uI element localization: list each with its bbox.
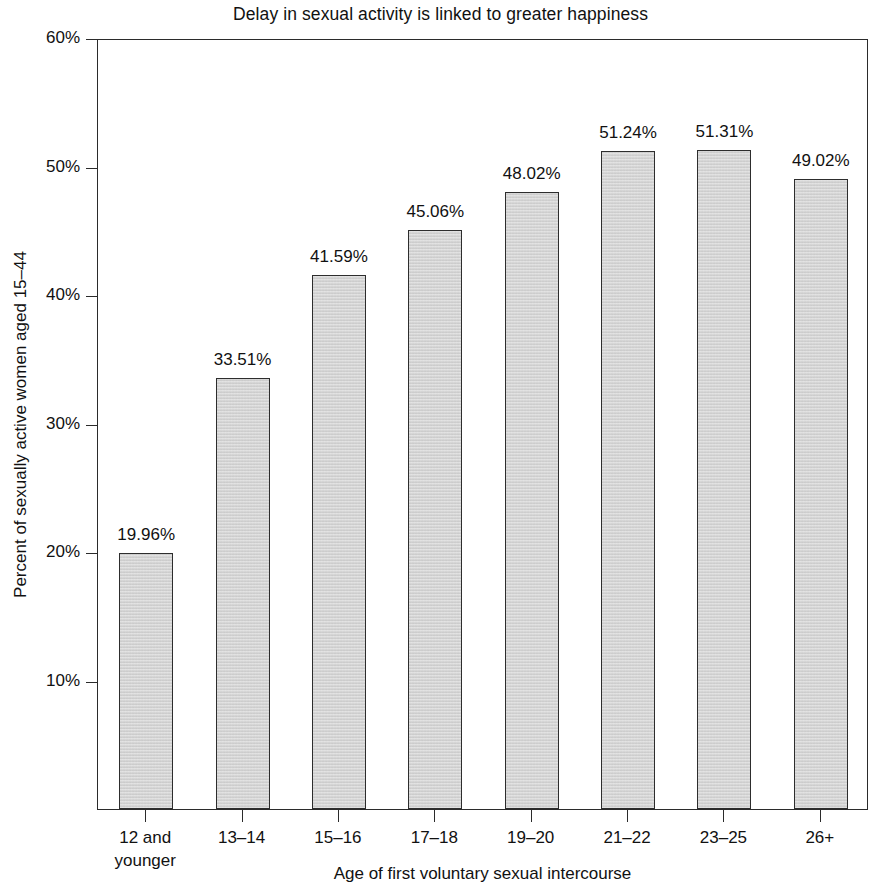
y-axis-tick-label: 20% [46, 542, 80, 562]
bar-value-label: 49.02% [761, 151, 881, 171]
bar [408, 230, 462, 809]
x-axis-tick-mark [242, 810, 243, 822]
bar [505, 192, 559, 809]
x-axis-tick-mark [820, 810, 821, 822]
bar [601, 151, 655, 809]
x-axis-tick-mark [531, 810, 532, 822]
x-axis-tick-label: 26+ [760, 826, 880, 849]
y-axis-tick-label: 10% [46, 671, 80, 691]
bar [697, 150, 751, 809]
y-axis-tick-mark [86, 296, 97, 297]
y-axis-tick-label: 60% [46, 28, 80, 48]
bar [216, 378, 270, 809]
y-axis-tick-mark [86, 682, 97, 683]
x-axis-tick-mark [434, 810, 435, 822]
y-axis-tick-label: 40% [46, 285, 80, 305]
x-axis-tick-mark [145, 810, 146, 822]
bar-value-label: 45.06% [375, 202, 495, 222]
x-axis-tick-mark [338, 810, 339, 822]
plot-area: 19.96%33.51%41.59%45.06%48.02%51.24%51.3… [97, 39, 868, 810]
bar-value-label: 51.31% [664, 122, 784, 142]
chart-title: Delay in sexual activity is linked to gr… [0, 4, 881, 25]
y-axis-tick-mark [86, 553, 97, 554]
bar [312, 275, 366, 809]
bar-value-label: 33.51% [183, 350, 303, 370]
y-axis-tick-mark [86, 168, 97, 169]
bar-value-label: 48.02% [472, 164, 592, 184]
bar-value-label: 19.96% [86, 525, 206, 545]
bar-value-label: 41.59% [279, 247, 399, 267]
y-axis-tick-label: 30% [46, 414, 80, 434]
y-axis-tick-mark [86, 425, 97, 426]
bar [119, 553, 173, 809]
y-axis-tick-mark [86, 39, 97, 40]
bar-chart: Delay in sexual activity is linked to gr… [0, 0, 881, 894]
x-axis-tick-mark [723, 810, 724, 822]
bar [794, 179, 848, 809]
x-axis-label: Age of first voluntary sexual intercours… [97, 864, 868, 884]
y-axis-ticks: 10%20%30%40%50%60% [0, 39, 97, 810]
x-axis-tick-mark [627, 810, 628, 822]
y-axis-tick-label: 50% [46, 157, 80, 177]
